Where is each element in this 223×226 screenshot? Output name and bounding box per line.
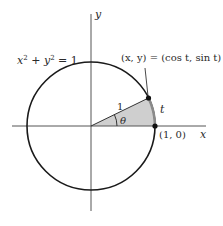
angle-label: θ	[120, 115, 126, 126]
point-1-0	[152, 123, 157, 128]
unit-circle-diagram: y x x2 + y2 = 1 (x, y) = (cos t, sin t) …	[0, 0, 223, 226]
eq-rhs: = 1	[55, 54, 78, 67]
arc-label: t	[160, 103, 165, 116]
point-cos-sin	[146, 95, 151, 100]
point-label: (x, y) = (cos t, sin t)	[121, 52, 221, 63]
eq-plus: +	[28, 54, 44, 67]
start-point-label: (1, 0)	[159, 129, 186, 140]
x-axis-label: x	[200, 128, 207, 141]
y-axis-label: y	[94, 8, 102, 21]
radius-label: 1	[117, 101, 123, 112]
equation-label: x2 + y2 = 1	[17, 54, 78, 67]
